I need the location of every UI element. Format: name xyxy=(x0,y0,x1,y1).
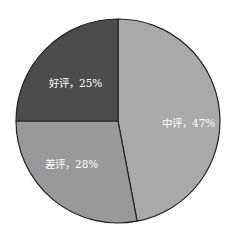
slice-label-bad: 差评，28% xyxy=(45,158,98,170)
pie-chart: 中评，47% 差评，28% 好评，25% xyxy=(0,0,234,242)
slice-label-medium: 中评，47% xyxy=(162,117,215,129)
slice-bad xyxy=(16,121,137,223)
slice-good xyxy=(16,19,118,121)
slice-label-good: 好评，25% xyxy=(49,77,102,89)
pie-chart-svg: 中评，47% 差评，28% 好评，25% xyxy=(0,0,234,242)
